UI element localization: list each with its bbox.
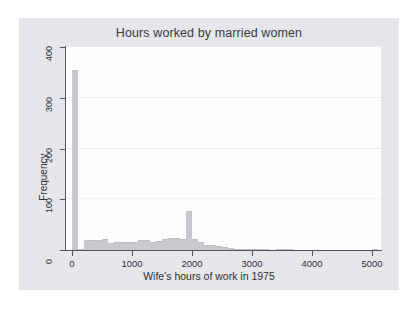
- y-axis-tick-label: 100: [44, 204, 54, 213]
- y-axis-tick-label-wrap: 200: [41, 149, 58, 150]
- gridline: [66, 97, 381, 98]
- x-axis-tick-label: 5000: [361, 258, 382, 269]
- gridline: [66, 148, 381, 149]
- x-axis-tick-label: 2000: [181, 258, 202, 269]
- y-axis-title: Frequency: [38, 154, 49, 201]
- x-axis-tick-label: 4000: [301, 258, 322, 269]
- gridline: [66, 46, 381, 47]
- x-axis-tick: [192, 251, 193, 256]
- x-axis-tick-label: 3000: [241, 258, 262, 269]
- y-axis-tick: [60, 250, 65, 251]
- y-axis-tick: [60, 98, 65, 99]
- y-axis-tick: [60, 199, 65, 200]
- y-axis-tick-label: 300: [44, 103, 54, 112]
- y-axis-tick-label: 0: [44, 255, 54, 264]
- x-axis-tick-label: 0: [69, 258, 74, 269]
- screenshot-root: Hours worked by married women 0100200300…: [0, 0, 418, 309]
- x-axis-tick: [72, 251, 73, 256]
- chart-title: Hours worked by married women: [19, 26, 399, 40]
- y-axis-title-wrap: Frequency: [25, 148, 26, 149]
- x-axis-line: [65, 250, 382, 251]
- y-axis-tick: [60, 47, 65, 48]
- x-axis-tick: [132, 251, 133, 256]
- x-axis-tick: [372, 251, 373, 256]
- histogram-bar: [72, 70, 78, 250]
- x-axis-tick: [312, 251, 313, 256]
- y-axis-tick-label: 400: [44, 52, 54, 61]
- plot-area: [66, 47, 381, 250]
- y-axis-tick: [60, 149, 65, 150]
- x-axis-tick: [252, 251, 253, 256]
- y-axis-tick-label-wrap: 0: [41, 250, 58, 251]
- figure-panel: Hours worked by married women 0100200300…: [19, 18, 399, 290]
- y-axis-line: [65, 46, 66, 251]
- x-axis-title: Wife's hours of work in 1975: [19, 270, 399, 282]
- y-axis-tick-label-wrap: 400: [41, 47, 58, 48]
- y-axis-tick-label-wrap: 300: [41, 98, 58, 99]
- gridline: [66, 198, 381, 199]
- x-axis-tick-label: 1000: [121, 258, 142, 269]
